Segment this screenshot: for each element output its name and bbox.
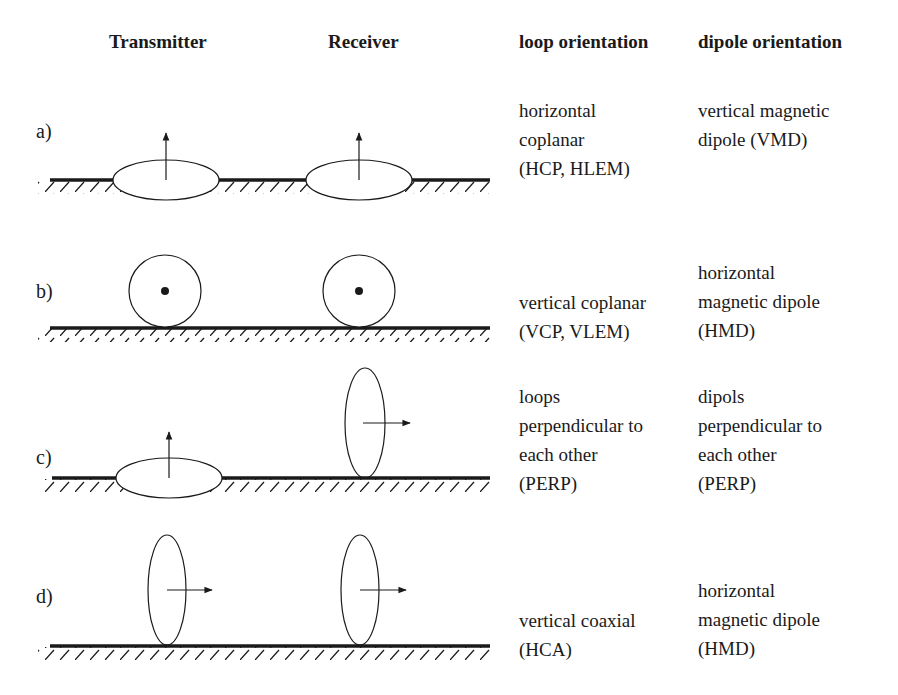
transmitter-horizontal-loop-icon — [113, 133, 219, 200]
transmitter-vertical-loop-icon — [129, 255, 201, 327]
ground-line-icon — [40, 478, 490, 492]
configuration-drawings — [0, 0, 898, 695]
receiver-horizontal-loop-icon — [306, 133, 412, 200]
ground-line-icon — [38, 646, 490, 660]
ground-line-icon — [38, 328, 490, 342]
row-a-drawing — [38, 133, 490, 200]
row-c-drawing — [40, 368, 490, 498]
row-d-drawing — [38, 535, 490, 660]
row-b-drawing — [38, 255, 490, 342]
transmitter-horizontal-loop-icon — [116, 432, 222, 498]
receiver-vertical-loop-icon — [341, 535, 406, 645]
ground-line-icon — [38, 180, 490, 194]
receiver-vertical-loop-icon — [345, 368, 410, 478]
receiver-vertical-loop-icon — [323, 255, 395, 327]
transmitter-vertical-loop-icon — [148, 535, 212, 645]
